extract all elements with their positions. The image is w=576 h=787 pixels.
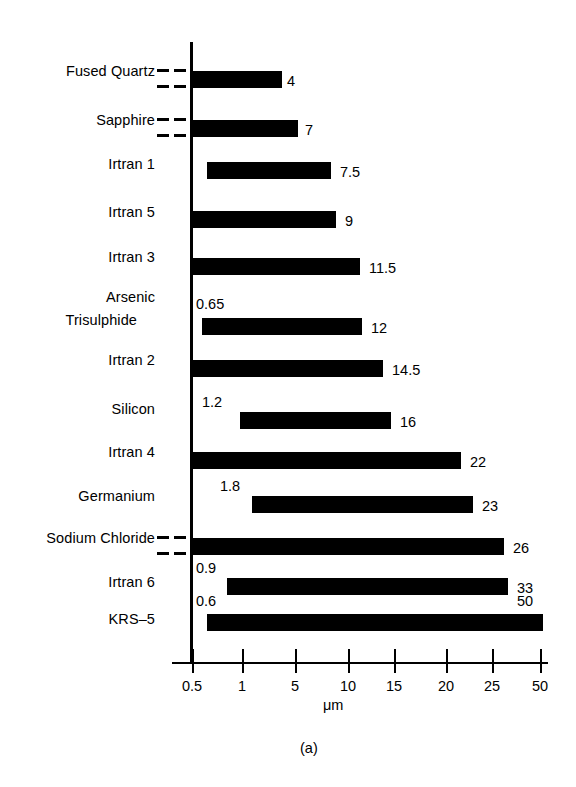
- bar-value-label: 16: [400, 414, 416, 430]
- bar-start-value-label: 1.8: [220, 478, 240, 494]
- x-axis-tick: [394, 649, 396, 673]
- plot-area: 0.5151015202550477.5911.5120.6514.5161.2…: [0, 0, 576, 787]
- x-axis-tick: [540, 649, 542, 673]
- bar-value-label: 11.5: [369, 260, 396, 276]
- bar: [192, 71, 282, 88]
- bar: [202, 318, 362, 335]
- bar-start-value-label: 0.9: [196, 560, 216, 576]
- x-axis-tick: [348, 649, 350, 673]
- x-axis-tick: [492, 649, 494, 673]
- bar-start-value-label: 0.65: [196, 296, 224, 312]
- bar-start-value-label: 0.6: [196, 593, 216, 609]
- x-axis-tick-label: 50: [510, 678, 570, 694]
- x-axis-tick-label: 15: [364, 678, 424, 694]
- bar: [240, 412, 391, 429]
- bar: [227, 578, 508, 595]
- bar: [192, 452, 461, 469]
- x-axis-tick: [192, 649, 194, 673]
- ir-transmission-range-chart: Fused QuartzSapphireIrtran 1Irtran 5Irtr…: [0, 0, 576, 787]
- bar-value-label: 22: [470, 454, 486, 470]
- bar: [192, 120, 298, 137]
- bar-value-label: 26: [513, 540, 529, 556]
- x-axis-tick-label: 1: [212, 678, 272, 694]
- bar-value-label: 7: [305, 122, 313, 138]
- bar-value-label: 50: [517, 593, 533, 609]
- bar: [192, 360, 383, 377]
- bar: [207, 162, 331, 179]
- bar: [207, 614, 543, 631]
- bar: [192, 258, 360, 275]
- axis-break-icon: [157, 118, 193, 139]
- x-axis-tick: [242, 649, 244, 673]
- bar-value-label: 12: [371, 320, 387, 336]
- bar: [252, 496, 473, 513]
- x-axis-tick: [446, 649, 448, 673]
- bar-start-value-label: 1.2: [202, 394, 222, 410]
- bar: [192, 538, 504, 555]
- axis-break-icon: [157, 69, 193, 90]
- figure-caption: (a): [300, 740, 318, 756]
- x-axis-tick: [295, 649, 297, 673]
- axis-break-icon: [157, 536, 193, 557]
- bar-value-label: 4: [287, 73, 295, 89]
- x-axis-title: μm: [323, 697, 343, 713]
- bar-value-label: 14.5: [392, 362, 420, 378]
- bar-value-label: 9: [345, 213, 353, 229]
- bar: [192, 211, 336, 228]
- x-axis-tick-label: 5: [265, 678, 325, 694]
- bar-value-label: 7.5: [340, 164, 360, 180]
- bar-value-label: 23: [482, 498, 498, 514]
